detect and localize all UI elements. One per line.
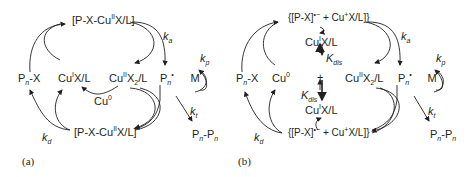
reaction-arrows: [0, 0, 471, 177]
panel-a-bottom-complex: [P-X-CuIIX/L]: [74, 126, 137, 138]
panel-b-termination-product: Pn-Pn: [430, 128, 456, 140]
panel-b-kd: kd: [254, 131, 263, 143]
panel-b-bottom-complex: {[P-X]•− + Cu+X/L]}: [288, 127, 370, 139]
panel-b-plus: +: [317, 71, 323, 83]
panel-b-kt: kt: [428, 105, 435, 117]
panel-a-termination-product: Pn-Pn: [192, 128, 218, 140]
panel-b-radical: Pn•: [398, 72, 412, 84]
panel-a-dormant-chain: Pn-X: [18, 72, 40, 84]
panel-a-copper0: Cu0: [94, 95, 112, 107]
panel-b-kp: kp: [436, 52, 445, 64]
panel-a-top-complex: [P-X-CuIIX/L]: [72, 14, 135, 26]
panel-b-cu1-bottom: CuIX/L: [305, 104, 338, 116]
panel-b-kdis-top: Kdis: [326, 52, 342, 64]
panel-a-deactivator: CuIIX2/L: [109, 72, 147, 84]
panel-a-kp: kp: [200, 52, 209, 64]
panel-b-dormant-chain: Pn-X: [236, 72, 258, 84]
panel-b-ka: ka: [401, 30, 410, 42]
panel-a-monomer: M: [184, 67, 206, 89]
panel-b-copper0: Cu0: [272, 72, 290, 84]
panel-a-kt: kt: [190, 105, 197, 117]
panel-b-kdis-bottom: Kdis: [301, 89, 317, 101]
panel-b-monomer: M: [421, 67, 443, 89]
panel-a-caption: (a): [22, 155, 34, 167]
panel-a-activator: CuIX/L: [58, 72, 91, 84]
panel-a-kd: kd: [42, 131, 51, 143]
panel-b-top-complex: {[P-X]•− + Cu+X/L]}: [288, 12, 370, 24]
panel-b-cu1-top: CuIX/L: [305, 36, 338, 48]
panel-b-deactivator: CuIIX2/L: [345, 72, 383, 84]
panel-b-caption: (b): [238, 155, 251, 167]
panel-a-ka: ka: [163, 30, 172, 42]
panel-a-radical: Pn•: [160, 72, 174, 84]
